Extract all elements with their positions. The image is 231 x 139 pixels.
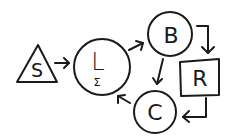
edge-r-to-c [183, 98, 206, 122]
node-r: R [180, 59, 219, 96]
node-l: L Σ [74, 39, 130, 95]
node-l-sublabel: Σ [94, 76, 101, 89]
node-b-label: B [163, 23, 178, 48]
edge-b-to-c [153, 59, 163, 84]
node-c-label: C [147, 100, 162, 125]
edge-s-to-l [55, 58, 69, 68]
edge-b-to-r [197, 26, 214, 53]
edge-l-to-b [129, 41, 143, 50]
node-b: B [148, 12, 192, 56]
node-l-label: L [91, 48, 104, 76]
arrow-line [118, 96, 130, 103]
node-s: S [17, 45, 57, 82]
diagram-canvas: S L Σ B R C [0, 0, 231, 139]
node-c: C [134, 91, 176, 133]
node-s-label: S [31, 59, 43, 81]
edge-c-to-l [118, 95, 130, 103]
node-r-label: R [192, 66, 207, 91]
arrow-line [197, 26, 208, 53]
